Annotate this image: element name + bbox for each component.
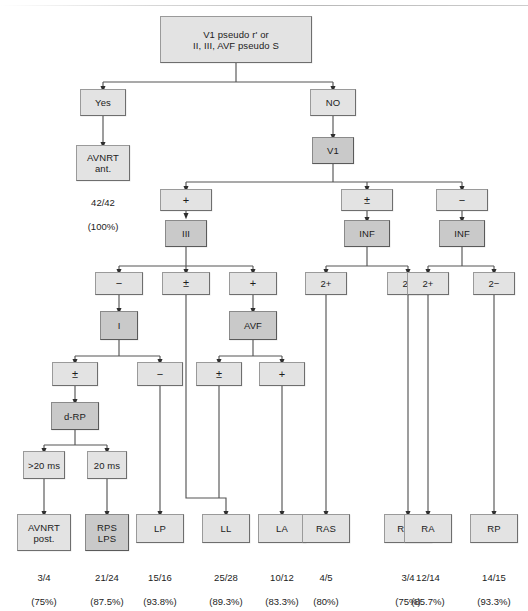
iii-plus-label: +	[250, 278, 257, 289]
ra-label: RA	[421, 523, 434, 534]
page-top-rule	[0, 5, 528, 6]
iii-minus-label: −	[116, 278, 123, 289]
yes-label: Yes	[95, 97, 111, 108]
ll-label: LL	[221, 523, 232, 534]
d-rp-label: d-RP	[64, 411, 86, 422]
node-no[interactable]: NO	[310, 89, 356, 116]
avf-plus-label: +	[279, 369, 286, 380]
node-la[interactable]: LA	[258, 514, 306, 543]
20ms-label: 20 ms	[94, 460, 120, 471]
node-inf-mid[interactable]: INF	[344, 220, 390, 247]
node-v1-minus[interactable]: −	[436, 189, 488, 211]
avf-plusminus-label: ±	[216, 369, 222, 380]
root-line-1: V1 pseudo r' or	[203, 29, 269, 40]
stat-ras-ratio: 4/5	[289, 572, 363, 584]
node-ll[interactable]: LL	[202, 514, 250, 543]
rps-lps-line-2: LPS	[98, 533, 116, 544]
stat-ras: 4/5 (80%)	[289, 560, 363, 611]
node-rp[interactable]: RP	[470, 514, 518, 543]
node-inf-right-2plus[interactable]: 2+	[407, 272, 449, 295]
avnrt-post-line-1: AVNRT	[28, 522, 60, 533]
rps-lps-line-1: RPS	[97, 522, 117, 533]
v1-minus-label: −	[459, 195, 466, 206]
stat-ra: 12/14 (85.7%)	[391, 560, 465, 611]
node-inf-mid-2plus[interactable]: 2+	[305, 272, 347, 295]
node-rps-lps[interactable]: RPS LPS	[85, 514, 129, 551]
inf-right-2minus-label: 2−	[488, 278, 499, 289]
inf-right-label: INF	[454, 228, 470, 239]
lp-label: LP	[154, 523, 166, 534]
node-gt-20ms[interactable]: >20 ms	[23, 451, 65, 479]
node-avf-plusminus[interactable]: ±	[196, 362, 242, 386]
node-ras[interactable]: RAS	[302, 514, 350, 543]
stat-rp: 14/15 (93.3%)	[457, 560, 528, 611]
v1-plus-label: +	[183, 195, 190, 206]
lead-iii-label: III	[182, 228, 190, 239]
node-v1[interactable]: V1	[312, 137, 354, 164]
ras-label: RAS	[316, 523, 336, 534]
stat-ra-ratio: 12/14	[391, 572, 465, 584]
node-inf-right[interactable]: INF	[439, 220, 485, 247]
stat-lp-ratio: 15/16	[123, 572, 197, 584]
node-lp[interactable]: LP	[136, 514, 184, 543]
stat-avnrt-ant-ratio: 42/42	[66, 197, 140, 209]
stat-avnrt-ant: 42/42 (100%)	[66, 185, 140, 245]
avnrt-ant-line-2: ant.	[95, 163, 111, 174]
stat-avnrt-ant-percent: (100%)	[66, 221, 140, 233]
inf-mid-label: INF	[359, 228, 375, 239]
node-v1-plusminus[interactable]: ±	[341, 189, 393, 211]
node-lead-i[interactable]: I	[100, 311, 138, 340]
stat-ras-percent: (80%)	[289, 596, 363, 608]
stat-lp: 15/16 (93.8%)	[123, 560, 197, 611]
i-plusminus-label: ±	[72, 369, 78, 380]
node-20ms[interactable]: 20 ms	[87, 451, 127, 479]
iii-plusminus-label: ±	[183, 278, 189, 289]
node-root-question[interactable]: V1 pseudo r' or II, III, AVF pseudo S	[160, 16, 312, 63]
node-ra[interactable]: RA	[404, 514, 452, 543]
v1-plusminus-label: ±	[364, 195, 370, 206]
stat-rp-ratio: 14/15	[457, 572, 528, 584]
node-iii-plus[interactable]: +	[229, 272, 277, 295]
node-lead-iii[interactable]: III	[165, 220, 207, 247]
avnrt-post-line-2: post.	[33, 533, 54, 544]
node-inf-right-2minus[interactable]: 2−	[473, 272, 515, 295]
inf-mid-2plus-label: 2+	[320, 278, 331, 289]
avf-label: AVF	[244, 320, 262, 331]
node-avf-plus[interactable]: +	[259, 362, 305, 386]
stat-ra-percent: (85.7%)	[391, 596, 465, 608]
node-i-plusminus[interactable]: ±	[52, 362, 98, 386]
node-yes[interactable]: Yes	[80, 89, 126, 116]
node-iii-plusminus[interactable]: ±	[162, 272, 210, 295]
node-avf[interactable]: AVF	[229, 311, 277, 340]
gt-20ms-label: >20 ms	[28, 460, 60, 471]
inf-right-2plus-label: 2+	[422, 278, 433, 289]
la-label: LA	[276, 523, 288, 534]
no-label: NO	[326, 97, 340, 108]
node-v1-plus[interactable]: +	[160, 189, 212, 211]
node-avnrt-post[interactable]: AVNRT post.	[17, 514, 71, 551]
node-i-minus[interactable]: −	[137, 362, 183, 386]
rp-label: RP	[487, 523, 500, 534]
root-line-2: II, III, AVF pseudo S	[193, 40, 279, 51]
node-avnrt-ant[interactable]: AVNRT ant.	[76, 145, 130, 181]
stat-lp-percent: (93.8%)	[123, 596, 197, 608]
node-iii-minus[interactable]: −	[95, 272, 143, 295]
node-d-rp[interactable]: d-RP	[51, 402, 99, 430]
lead-i-label: I	[118, 320, 121, 331]
v1-label: V1	[327, 145, 339, 156]
i-minus-label: −	[157, 369, 164, 380]
stat-rp-percent: (93.3%)	[457, 596, 528, 608]
avnrt-ant-line-1: AVNRT	[87, 152, 119, 163]
